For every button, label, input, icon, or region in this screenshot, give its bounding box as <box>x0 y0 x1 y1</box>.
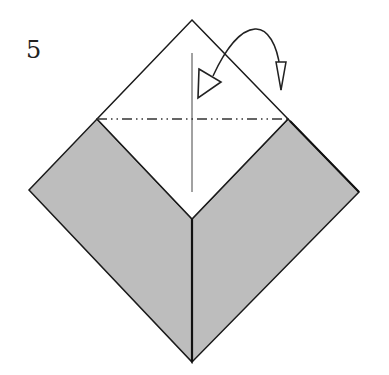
origami-diagram <box>0 0 389 375</box>
fold-behind-arrowhead-icon <box>276 62 286 90</box>
